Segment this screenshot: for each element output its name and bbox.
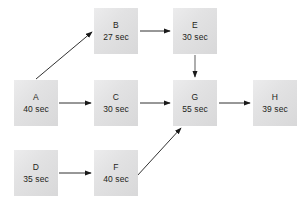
node-a-duration: 40 sec bbox=[23, 104, 49, 115]
node-c-duration: 30 sec bbox=[103, 104, 129, 115]
node-b[interactable]: B 27 sec bbox=[94, 8, 138, 54]
node-e[interactable]: E 30 sec bbox=[173, 8, 217, 54]
node-e-duration: 30 sec bbox=[182, 32, 208, 43]
node-a-id: A bbox=[33, 92, 39, 103]
node-c-id: C bbox=[113, 92, 119, 103]
node-d-duration: 35 sec bbox=[23, 174, 49, 185]
node-f-id: F bbox=[113, 162, 118, 173]
node-e-id: E bbox=[192, 20, 198, 31]
node-d[interactable]: D 35 sec bbox=[14, 150, 58, 196]
node-g-duration: 55 sec bbox=[182, 104, 208, 115]
node-f-duration: 40 sec bbox=[103, 174, 129, 185]
node-g[interactable]: G 55 sec bbox=[173, 80, 217, 126]
node-c[interactable]: C 30 sec bbox=[94, 80, 138, 126]
edge-f-to-g bbox=[137, 128, 181, 176]
node-b-id: B bbox=[113, 20, 119, 31]
node-h-id: H bbox=[272, 92, 278, 103]
node-d-id: D bbox=[33, 162, 39, 173]
node-g-id: G bbox=[192, 92, 199, 103]
network-diagram: A 40 sec B 27 sec C 30 sec D 35 sec E 30… bbox=[0, 0, 305, 207]
node-h[interactable]: H 39 sec bbox=[253, 80, 297, 126]
node-a[interactable]: A 40 sec bbox=[14, 80, 58, 126]
node-h-duration: 39 sec bbox=[262, 104, 288, 115]
node-b-duration: 27 sec bbox=[103, 32, 129, 43]
edge-a-to-b bbox=[36, 32, 92, 79]
node-f[interactable]: F 40 sec bbox=[94, 150, 138, 196]
